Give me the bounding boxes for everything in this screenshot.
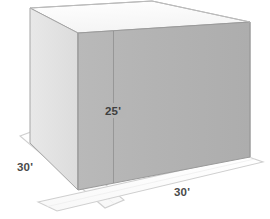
width-dimension-label: 30'	[174, 186, 190, 198]
cube-solid-group	[30, 1, 250, 190]
cube-dimension-diagram: 25' 30' 30'	[0, 0, 270, 219]
cube-diagram-svg: 25' 30' 30'	[0, 0, 270, 219]
cube-left-face	[30, 8, 78, 190]
depth-dimension-label: 30'	[17, 161, 33, 173]
height-dimension-label: 25'	[105, 105, 121, 117]
